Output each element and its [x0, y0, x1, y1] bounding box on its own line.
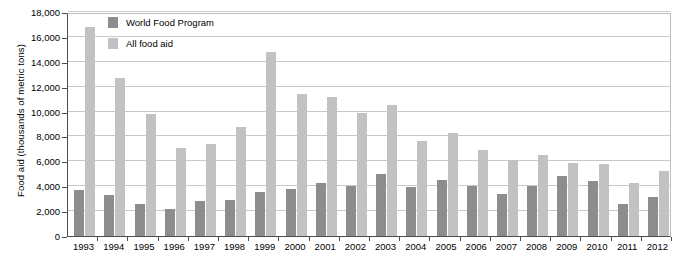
y-axis-tick-label: 14,000 [0, 57, 67, 68]
bar-all-food-aid [568, 163, 578, 236]
bar-all-food-aid [176, 148, 186, 236]
bar-world-food-program [135, 204, 145, 236]
y-axis-tick-label: 8,000 [0, 131, 67, 142]
legend-swatch [108, 38, 118, 49]
bar-all-food-aid [478, 150, 488, 236]
gridline [68, 111, 670, 112]
bar-world-food-program [588, 181, 598, 236]
bar-world-food-program [255, 192, 265, 236]
bar-all-food-aid [387, 105, 397, 236]
bar-world-food-program [557, 176, 567, 236]
bar-all-food-aid [629, 183, 639, 237]
bar-all-food-aid [297, 94, 307, 236]
y-axis-tick-label: 10,000 [0, 107, 67, 118]
bar-all-food-aid [357, 113, 367, 236]
bar-group [527, 14, 548, 236]
bar-world-food-program [346, 186, 356, 236]
bar-world-food-program [376, 174, 386, 236]
bar-world-food-program [648, 197, 658, 236]
legend-label: All food aid [126, 38, 173, 49]
y-axis-tick-label: 4,000 [0, 181, 67, 192]
bar-all-food-aid [85, 27, 95, 236]
bar-world-food-program [316, 183, 326, 237]
bar-all-food-aid [206, 144, 216, 236]
bar-group [74, 14, 95, 236]
bar-group [437, 14, 458, 236]
legend-swatch [108, 17, 118, 28]
legend-item-world-food-program: World Food Program [108, 14, 214, 31]
y-axis-tick-label: 12,000 [0, 82, 67, 93]
bar-group [225, 14, 246, 236]
bar-world-food-program [165, 209, 175, 236]
bar-all-food-aid [659, 171, 669, 236]
bar-group [346, 14, 367, 236]
bar-world-food-program [195, 201, 205, 236]
bar-group [255, 14, 276, 236]
y-axis-tick-label: 2,000 [0, 206, 67, 217]
y-axis-tick-label: 16,000 [0, 32, 67, 43]
bar-world-food-program [437, 180, 447, 236]
bar-group [557, 14, 578, 236]
bar-world-food-program [618, 204, 628, 236]
bar-all-food-aid [417, 141, 427, 236]
bar-world-food-program [497, 194, 507, 236]
bar-world-food-program [406, 187, 416, 236]
bar-group [618, 14, 639, 236]
y-axis-tick-mark [62, 237, 67, 238]
bar-all-food-aid [266, 52, 276, 236]
bar-all-food-aid [115, 78, 125, 236]
bar-group [316, 14, 337, 236]
bar-group [376, 14, 397, 236]
bar-group [648, 14, 669, 236]
x-axis-tick-label: 2012 [637, 241, 677, 252]
bar-world-food-program [74, 190, 84, 236]
gridline [68, 210, 670, 211]
x-axis-tick-mark [671, 237, 672, 241]
bar-group [588, 14, 609, 236]
legend-item-all-food-aid: All food aid [108, 35, 214, 52]
gridline [68, 11, 670, 12]
bar-world-food-program [467, 186, 477, 236]
bar-all-food-aid [448, 133, 458, 236]
legend: World Food ProgramAll food aid [108, 14, 214, 56]
bar-chart: Food aid (thousands of metric tons) 02,0… [0, 0, 679, 271]
bar-world-food-program [286, 189, 296, 236]
gridline [68, 135, 670, 136]
bar-all-food-aid [599, 164, 609, 236]
bar-all-food-aid [508, 160, 518, 236]
bar-all-food-aid [236, 127, 246, 237]
y-axis-tick-label: 18,000 [0, 7, 67, 18]
bar-group [497, 14, 518, 236]
bar-world-food-program [104, 195, 114, 236]
gridline [68, 86, 670, 87]
bar-group [406, 14, 427, 236]
bar-group [286, 14, 307, 236]
bar-all-food-aid [327, 97, 337, 236]
gridline [68, 185, 670, 186]
bar-world-food-program [225, 200, 235, 236]
legend-label: World Food Program [126, 17, 214, 28]
y-axis-tick-label: 6,000 [0, 156, 67, 167]
bar-world-food-program [527, 186, 537, 236]
bar-all-food-aid [146, 114, 156, 236]
gridline [68, 61, 670, 62]
gridline [68, 160, 670, 161]
bar-all-food-aid [538, 155, 548, 236]
bar-group [467, 14, 488, 236]
y-axis-tick-label: 0 [0, 231, 67, 242]
